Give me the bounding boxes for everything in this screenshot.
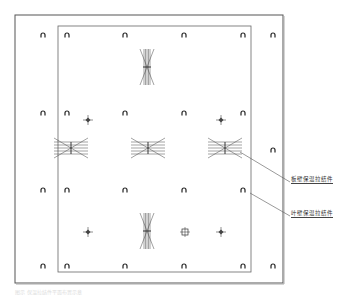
anchor-icon	[41, 33, 45, 38]
cross-marker-icon	[83, 115, 93, 125]
anchor-icon	[241, 264, 245, 269]
anchor-icon	[271, 33, 275, 38]
anchor-icon	[65, 33, 69, 38]
cross-marker-icon	[216, 227, 226, 237]
cross-marker-icon	[83, 227, 93, 237]
vertical-tie-bundle	[140, 49, 154, 85]
tie-bundles	[54, 49, 242, 249]
layout-drawing	[0, 0, 344, 295]
anchor-icon	[123, 264, 127, 269]
anchor-icon	[123, 111, 127, 116]
anchor-icon	[241, 33, 245, 38]
cross-markers	[83, 115, 226, 237]
vertical-tie-bundle	[140, 213, 154, 249]
anchor-icon	[271, 264, 275, 269]
anchor-icon	[65, 264, 69, 269]
anchor-icon	[182, 111, 186, 116]
anchor-icon	[123, 188, 127, 193]
caption: 图示 保温拉结件平面布置示意	[15, 288, 82, 295]
label-leaf-tie: 叶壁保温拉结件	[291, 210, 333, 218]
anchor-icon	[123, 33, 127, 38]
inner-frame	[58, 26, 251, 272]
anchor-icon	[182, 264, 186, 269]
anchor-icon	[65, 188, 69, 193]
label-panel-tie: 板壁保温拉结件	[291, 176, 333, 184]
anchor-icon	[41, 264, 45, 269]
square-marker-icon	[180, 227, 190, 237]
anchor-icon	[182, 188, 186, 193]
anchor-icon	[182, 33, 186, 38]
anchor-icon	[41, 111, 45, 116]
horizontal-tie-bundle	[54, 138, 88, 158]
anchor-icon	[241, 111, 245, 116]
anchor-icon	[271, 148, 275, 153]
horizontal-tie-bundle	[208, 138, 242, 158]
outer-frame	[15, 15, 283, 283]
anchor-icon	[41, 188, 45, 193]
cross-marker-icon	[216, 115, 226, 125]
anchor-icon	[65, 111, 69, 116]
anchor-icon	[241, 188, 245, 193]
horizontal-tie-bundle	[131, 138, 165, 158]
